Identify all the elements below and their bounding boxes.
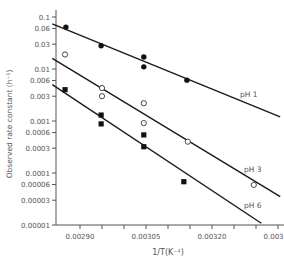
data-points (62, 24, 256, 187)
open-circle-marker (185, 139, 190, 144)
open-circle-marker (141, 121, 146, 126)
open-circle-marker (99, 85, 104, 90)
y-tick-label: 0.00003 (21, 197, 50, 205)
filled-circle-marker (184, 77, 189, 82)
fit-line-ph6 (52, 85, 261, 224)
y-tick-label: 0.001 (30, 118, 50, 126)
filled-circle-marker (141, 64, 146, 69)
fit-lines (52, 24, 280, 223)
filled-circle-marker (63, 24, 68, 29)
open-circle-marker (141, 101, 146, 106)
y-tick-label: 0.0003 (26, 145, 51, 153)
x-tick-label: 0.00305 (132, 233, 161, 241)
filled-square-marker (99, 121, 104, 126)
filled-square-marker (141, 144, 146, 149)
x-tick-label: 0.00320 (198, 233, 227, 241)
y-tick-label: 0.00006 (21, 181, 50, 189)
arrhenius-chart: 0.10.060.030.010.0060.0030.0010.00060.00… (0, 0, 284, 262)
filled-square-marker (181, 179, 186, 184)
x-axis-label: 1/T(K⁻¹) (152, 248, 184, 257)
x-tick-label: 0.00335 (264, 233, 284, 241)
y-tick-label: 0.1 (39, 14, 50, 22)
filled-circle-marker (98, 43, 103, 48)
y-tick-label: 0.00001 (21, 222, 50, 230)
x-tick-label: 0.00290 (66, 233, 95, 241)
filled-square-marker (62, 87, 67, 92)
open-circle-marker (251, 182, 256, 187)
y-tick-label: 0.0001 (26, 170, 51, 178)
y-tick-label: 0.01 (34, 66, 50, 74)
y-tick-label: 0.003 (30, 93, 50, 101)
open-circle-marker (99, 94, 104, 99)
filled-square-marker (141, 132, 146, 137)
series-label-ph1: pH 1 (240, 90, 258, 99)
y-tick-label: 0.006 (30, 77, 51, 85)
series-label-ph3: pH 3 (244, 165, 262, 174)
fit-line-ph1 (52, 24, 280, 117)
fit-line-ph3 (52, 58, 280, 196)
y-tick-label: 0.03 (34, 41, 50, 49)
series-label-ph6: pH 6 (244, 201, 262, 210)
y-tick-label: 0.06 (34, 25, 50, 33)
open-circle-marker (62, 52, 67, 57)
y-axis-label: Observed rate constant (h⁻¹) (5, 70, 14, 179)
filled-circle-marker (141, 54, 146, 59)
filled-square-marker (99, 112, 104, 117)
y-tick-label: 0.0006 (26, 129, 51, 137)
